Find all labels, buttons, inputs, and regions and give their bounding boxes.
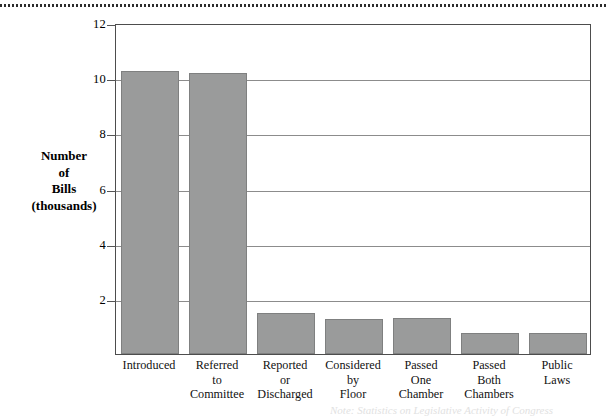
- y-tick-mark-12: [107, 25, 116, 26]
- bar-chart-figure: Number of Bills (thousands) 24681012 Int…: [0, 0, 608, 417]
- plot-area: [115, 24, 591, 355]
- dotted-rule-icon: [0, 4, 608, 7]
- bar-series: [116, 25, 590, 354]
- y-tick-label-10: 10: [72, 73, 106, 85]
- bar: [393, 318, 450, 354]
- y-tick-label-8: 8: [72, 128, 106, 140]
- bar: [189, 73, 246, 354]
- y-axis-tick-labels: 24681012: [66, 24, 106, 355]
- bar: [461, 333, 518, 355]
- y-tick-mark-6: [107, 191, 116, 192]
- y-tick-mark-4: [107, 246, 116, 247]
- bar: [121, 71, 178, 354]
- x-axis-category-labels: IntroducedReferredtoCommitteeReportedorD…: [115, 358, 591, 410]
- x-axis-label-line: Chambers: [448, 387, 530, 402]
- y-tick-mark-2: [107, 301, 116, 302]
- y-tick-mark-8: [107, 135, 116, 136]
- y-tick-mark-10: [107, 80, 116, 81]
- x-axis-label-line: Public: [516, 358, 598, 373]
- x-axis-label: PublicLaws: [516, 358, 598, 387]
- bar: [529, 333, 586, 354]
- y-tick-label-12: 12: [72, 18, 106, 30]
- bar: [257, 313, 314, 354]
- bar: [325, 319, 382, 354]
- y-tick-label-6: 6: [72, 184, 106, 196]
- y-tick-label-2: 2: [72, 294, 106, 306]
- y-tick-label-4: 4: [72, 239, 106, 251]
- x-axis-label-line: Laws: [516, 373, 598, 388]
- figure-caption: Note: Statistics on Legislative Activity…: [330, 404, 608, 417]
